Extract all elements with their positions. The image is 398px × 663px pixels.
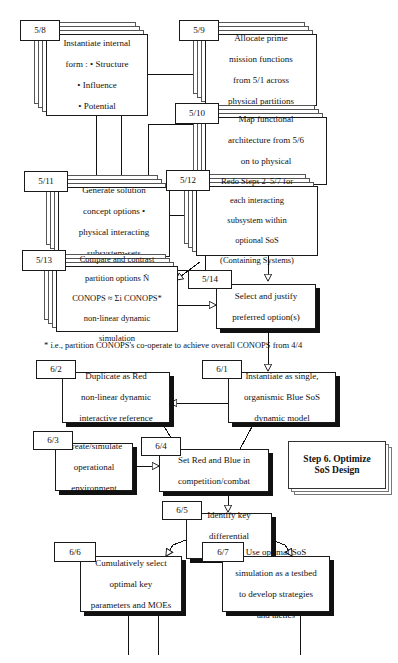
node-text-line: parameters and MOEs [88, 600, 174, 610]
node-text-line: CONOPS ≈ Σi CONOPS* [69, 294, 165, 304]
node-text-line: • Potential [60, 101, 133, 111]
node-text-line: on to physical [225, 156, 307, 166]
tag-label: 5/13 [36, 256, 52, 265]
legend-card: Step 6. Optimize SoS Design [288, 441, 386, 489]
node-text-line: Allocate prime [225, 33, 297, 43]
node-text-line: Duplicate as Red [76, 371, 156, 381]
node-text-line: Use optimal SoS [232, 547, 320, 557]
tag-label: 6/6 [69, 548, 81, 557]
node-text-line: Instantiate internal [60, 38, 133, 48]
node-body: Allocate prime mission functions from 5/… [205, 34, 317, 106]
node-text-line: Instantiate as single, [241, 371, 323, 381]
node-text-line: optimal key [88, 579, 174, 589]
tag-label: 6/7 [217, 548, 229, 557]
node-text-line: Generate solution [76, 185, 153, 195]
node-5-14[interactable]: Select and justify preferred option(s) 5… [216, 284, 316, 329]
node-text-line: architecture from 5/6 [225, 135, 307, 145]
tag-label: 6/1 [216, 365, 228, 374]
node-body: Generate solution concept options • phys… [58, 187, 170, 257]
node-text-line: each interacting [217, 196, 297, 206]
node-text-line: and tactics [232, 610, 320, 620]
node-tag-6-2: 6/2 [36, 360, 76, 379]
node-body: Create/simulate operational environment [55, 443, 133, 491]
node-text-line: to develop strategies [232, 589, 320, 599]
node-body: Compare and contrast partition options Ñ… [56, 266, 178, 332]
node-5-12[interactable]: Redo Steps 2–5/7 for each interacting su… [196, 186, 318, 256]
node-text-line: non-linear dynamic [76, 392, 156, 402]
footnote-text: * i.e., partition CONOPS's co-operate to… [44, 340, 302, 350]
node-text-line: non-linear dynamic [69, 314, 165, 324]
node-6-7[interactable]: Use optimal SoS simulation as a testbed … [222, 556, 330, 612]
node-tag-5-12: 5/12 [166, 170, 210, 191]
node-5-9[interactable]: Allocate prime mission functions from 5/… [205, 34, 317, 106]
node-5-13[interactable]: Compare and contrast partition options Ñ… [56, 266, 178, 332]
node-text-line: optional SoS [217, 236, 297, 246]
node-tag-5-11: 5/11 [24, 171, 68, 192]
node-text-line: operational [63, 462, 125, 472]
footnote: * i.e., partition CONOPS's co-operate to… [44, 340, 302, 350]
tag-label: 5/10 [189, 109, 205, 118]
node-body: Redo Steps 2–5/7 for each interacting su… [196, 186, 318, 256]
node-text-line: Set Red and Blue in [175, 455, 253, 465]
node-tag-6-5: 6/5 [162, 501, 202, 520]
node-text-line: Identify key [204, 510, 254, 520]
node-text-line: simulation as a testbed [232, 568, 320, 578]
legend-line: Step 6. Optimize [303, 454, 370, 464]
node-text-line: dynamic model [241, 413, 323, 423]
tag-label: 5/9 [193, 26, 205, 35]
node-text-line: Map functional [225, 114, 307, 124]
node-tag-5-14: 5/14 [188, 270, 232, 289]
node-tag-6-4: 6/4 [141, 437, 181, 456]
node-text-line: Redo Steps 2–5/7 for [217, 177, 297, 187]
node-text-line: partition options Ñ [69, 274, 165, 284]
node-body: Instantiate as single, organismic Blue S… [228, 372, 336, 423]
node-tag-5-9: 5/9 [179, 20, 219, 41]
node-text-line: organismic Blue SoS [241, 392, 323, 402]
tag-label: 5/14 [202, 275, 218, 284]
node-tag-5-8: 5/8 [20, 20, 60, 41]
node-text-line: Select and justify [229, 291, 303, 301]
node-text-line: differential [204, 531, 254, 541]
node-body: Duplicate as Red non-linear dynamic inte… [62, 372, 170, 423]
tag-label: 5/11 [38, 177, 54, 186]
node-text-line: Cumulatively select [88, 558, 174, 568]
node-6-4[interactable]: Set Red and Blue in competition/combat 6… [159, 449, 269, 492]
node-5-8[interactable]: Instantiate internal form : • Structure … [46, 34, 148, 116]
node-body: Cumulatively select optimal key paramete… [80, 556, 182, 612]
legend-line: SoS Design [314, 465, 359, 475]
tag-label: 6/4 [155, 442, 167, 451]
node-tag-5-13: 5/13 [22, 250, 66, 271]
node-text-line: (Containing Systems) [217, 256, 297, 266]
node-text-line: form : • Structure [60, 59, 133, 69]
node-tag-6-6: 6/6 [54, 542, 96, 562]
tag-label: 6/3 [47, 436, 59, 445]
node-tag-6-7: 6/7 [202, 542, 244, 562]
node-text-line: interactive reference [76, 413, 156, 423]
node-text-line: Compare and contrast [69, 255, 165, 265]
node-text-line: preferred option(s) [229, 312, 303, 322]
node-text-line: concept options • [76, 206, 153, 216]
node-text-line: from 5/1 across [225, 75, 297, 85]
tag-label: 5/12 [180, 176, 196, 185]
node-tag-6-1: 6/1 [202, 360, 242, 379]
tag-label: 6/5 [176, 506, 188, 515]
node-5-11[interactable]: Generate solution concept options • phys… [58, 187, 170, 257]
flowchart-canvas: Instantiate internal form : • Structure … [0, 0, 398, 663]
node-text-line: • Influence [60, 80, 133, 90]
node-text-line: competition/combat [175, 476, 253, 486]
node-text-line: physical interacting [76, 227, 153, 237]
node-6-2[interactable]: Duplicate as Red non-linear dynamic inte… [62, 372, 170, 423]
node-6-3[interactable]: Create/simulate operational environment … [55, 443, 133, 491]
node-text-line: subsystem within [217, 216, 297, 226]
node-text-line: mission functions [225, 54, 297, 64]
node-body: Instantiate internal form : • Structure … [46, 34, 148, 116]
tag-label: 5/8 [34, 26, 46, 35]
node-6-1[interactable]: Instantiate as single, organismic Blue S… [228, 372, 336, 423]
node-text-line: environment [63, 483, 125, 493]
node-body: Select and justify preferred option(s) [216, 284, 316, 329]
node-tag-6-3: 6/3 [33, 431, 73, 450]
node-6-6[interactable]: Cumulatively select optimal key paramete… [80, 556, 182, 612]
tag-label: 6/2 [50, 365, 62, 374]
legend-label: Step 6. Optimize SoS Design [288, 441, 386, 489]
node-tag-5-10: 5/10 [175, 103, 219, 124]
